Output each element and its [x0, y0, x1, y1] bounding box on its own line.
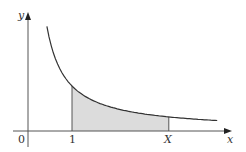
origin-label: 0 [18, 133, 25, 146]
y-axis-label: y [17, 9, 25, 22]
integral-plot: y x 0 1 X [0, 0, 246, 152]
tick-label-1: 1 [69, 133, 76, 146]
x-axis-label: x [227, 133, 234, 146]
shaded-area [72, 86, 169, 131]
y-axis-arrow-icon [25, 12, 31, 20]
tick-label-X: X [163, 133, 173, 146]
